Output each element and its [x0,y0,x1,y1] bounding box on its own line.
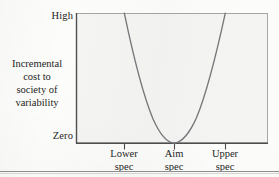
y-axis-high-label: High [52,10,73,22]
y-axis-title-line-4: variability [2,96,72,109]
taguchi-loss-function-figure: High Zero Incremental cost to society of… [0,0,279,177]
page-divider-rule [0,171,279,172]
x-tick-label-upper-spec: Upper spec [193,148,257,173]
y-axis-zero-label: Zero [53,130,73,142]
x-tick-label-upper-spec-line-1: Upper [193,148,257,161]
y-axis-title-line-2: cost to [2,70,72,83]
plot-background [77,14,268,144]
y-axis-title-line-1: Incremental [2,57,72,70]
page-divider-rule-shadow [0,173,279,174]
y-axis-title: Incremental cost to society of variabili… [2,57,72,109]
y-axis-title-line-3: society of [2,83,72,96]
